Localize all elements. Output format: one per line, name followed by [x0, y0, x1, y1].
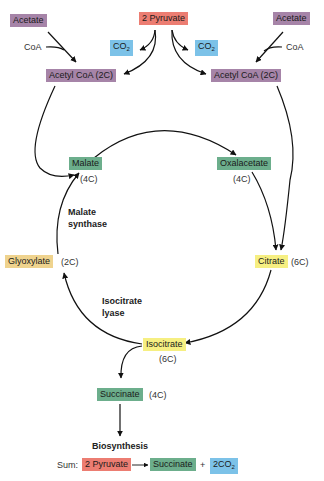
oxalacetate-carbons: (4C) [233, 174, 251, 185]
sum-co2-text: 2CO [213, 459, 232, 469]
succinate-carbons: (4C) [149, 390, 167, 401]
arrow-isocitrate-to-succinate [121, 346, 142, 378]
malate-node: Malate [69, 157, 102, 170]
arrow-acetylcoa-to-citrate [277, 86, 293, 250]
pyruvate-node: 2 Pyruvate [139, 12, 188, 25]
co2-right-subscript: 2 [212, 46, 215, 52]
glyoxylate-carbons: (2C) [61, 257, 79, 268]
biosynthesis-label: Biosynthesis [92, 441, 148, 452]
sum-plus: + [200, 460, 205, 471]
sum-succinate: Succinate [150, 458, 196, 471]
acetylcoa-right-node: Acetyl CoA (2C) [211, 69, 281, 82]
coa-left-label: CoA [24, 42, 42, 53]
malate-synthase-label-line1: Malate [68, 207, 96, 218]
co2-left-text: CO [113, 41, 127, 51]
malate-carbons: (4C) [80, 174, 98, 185]
malate-synthase-label-line2: synthase [68, 219, 107, 230]
citrate-node: Citrate [255, 255, 288, 268]
isocitrate-carbons: (6C) [159, 354, 177, 365]
glyoxylate-node: Glyoxylate [5, 255, 53, 268]
acetylcoa-left-node: Acetyl CoA (2C) [46, 69, 116, 82]
isocitrate-lyase-label-line1: Isocitrate [102, 296, 142, 307]
sum-pyruvate: 2 Pyruvate [82, 458, 131, 471]
sum-label: Sum: [57, 460, 78, 471]
isocitrate-node: Isocitrate [143, 338, 186, 351]
isocitrate-lyase-label-line2: lyase [102, 308, 125, 319]
co2-right-text: CO [198, 41, 212, 51]
succinate-node: Succinate [97, 388, 143, 401]
co2-left-subscript: 2 [127, 46, 130, 52]
co2-right-node: CO2 [195, 40, 218, 56]
acetate-right-node: Acetate [273, 12, 310, 25]
sum-co2-subscript: 2 [232, 464, 235, 470]
arrow-oxalacetate-to-citrate [252, 172, 276, 250]
acetate-left-node: Acetate [10, 14, 47, 27]
co2-left-node: CO2 [110, 40, 133, 56]
sum-co2: 2CO2 [210, 458, 238, 474]
arrow-coa-left [46, 47, 64, 50]
arrow-citrate-to-isocitrate [185, 270, 271, 343]
arrow-malate-to-oxalacetate [94, 131, 236, 158]
coa-right-label: CoA [286, 42, 304, 53]
oxalacetate-node: Oxalacetate [217, 157, 271, 170]
citrate-carbons: (6C) [291, 257, 309, 268]
arrow-pyruvate-to-co2-left [140, 30, 155, 50]
